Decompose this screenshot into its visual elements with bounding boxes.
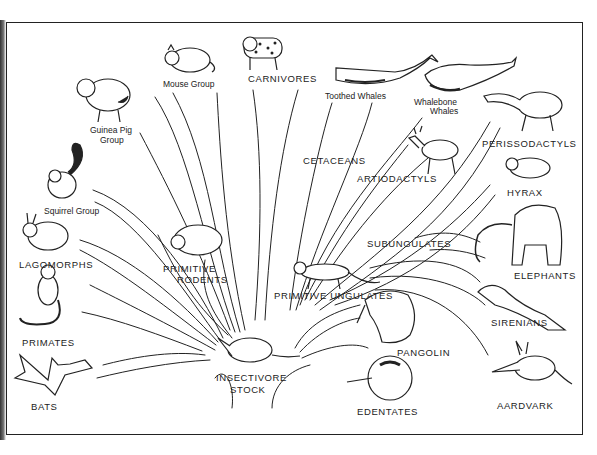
label-cetaceans: CETACEANS: [303, 155, 366, 166]
toothed-whale-icon: [336, 55, 438, 84]
artiodactyl-icon: [409, 126, 458, 174]
rabbit-icon: [23, 213, 68, 250]
label-elephants: ELEPHANTS: [514, 270, 576, 281]
label-artiodactyls: ARTIODACTYLS: [357, 173, 437, 184]
label-mouse-group: Mouse Group: [163, 79, 215, 90]
elephant-icon: [475, 205, 561, 265]
label-perissodactyls: PERISSODACTYLS: [482, 138, 576, 149]
primitive-rodent-icon: [171, 225, 222, 255]
label-primitive-rodents-line1: PRIMITIVE: [163, 263, 216, 274]
insectivore-icon: [218, 338, 300, 362]
guinea-pig-icon: [77, 79, 130, 122]
phylogeny-diagram: [0, 0, 597, 455]
label-insectivore-line2: STOCK: [230, 384, 266, 395]
whalebone-whale-icon: [425, 58, 516, 90]
branch-lines: [80, 90, 500, 408]
label-aardvark: AARDVARK: [497, 400, 553, 411]
edentate-icon: [347, 356, 412, 400]
primitive-ungulate-icon: [294, 262, 380, 289]
label-toothed-whales: Toothed Whales: [325, 91, 386, 102]
label-whalebone-whales-line2: Whales: [430, 106, 458, 117]
label-subungulates: SUBUNGULATES: [367, 238, 451, 249]
animal-illustrations: [15, 37, 572, 400]
primate-icon: [20, 265, 60, 324]
label-primitive-ungulates: PRIMITIVE UNGULATES: [274, 290, 393, 301]
bat-icon: [15, 355, 92, 395]
aardvark-icon: [492, 341, 572, 384]
hyrax-icon: [506, 158, 550, 178]
label-hyrax: HYRAX: [507, 187, 543, 198]
label-edentates: EDENTATES: [357, 406, 418, 417]
label-squirrel-group: Squirrel Group: [44, 206, 99, 217]
label-guinea-pig-line2: Group: [100, 135, 124, 146]
label-sirenians: SIRENIANS: [491, 317, 548, 328]
label-pangolin: PANGOLIN: [397, 347, 450, 358]
label-insectivore-line1: INSECTIVORE: [216, 372, 287, 383]
label-bats: BATS: [31, 401, 58, 412]
squirrel-icon: [48, 143, 82, 198]
label-primates: PRIMATES: [22, 337, 75, 348]
label-lagomorphs: LAGOMORPHS: [19, 259, 93, 270]
carnivore-icon: [243, 37, 282, 70]
perissodactyl-icon: [484, 92, 562, 131]
label-primitive-rodents-line2: RODENTS: [177, 274, 228, 285]
mouse-icon: [165, 45, 215, 72]
label-carnivores: CARNIVORES: [248, 73, 317, 84]
